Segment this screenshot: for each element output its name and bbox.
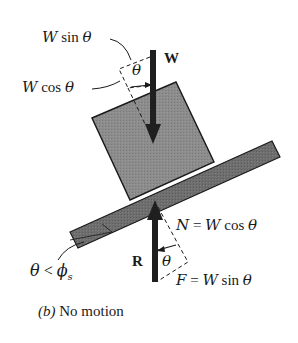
f-var: F [176,271,186,289]
w-sin-arrowhead [131,82,152,88]
caption-text: No motion [56,303,124,319]
normal-arrowhead [157,245,176,252]
w-var: W [202,271,217,289]
caption-part-label: (b) [38,303,56,319]
sin-fn: sin [218,272,243,288]
equals: = [186,272,202,288]
w-var: W [22,78,37,96]
sin-fn: sin [57,29,82,45]
w-sin-leader [110,39,131,60]
phi-symbol: ϕ [57,261,68,280]
cos-fn: cos [37,79,65,95]
no-motion-diagram [0,0,298,343]
theta-symbol: θ [30,261,40,280]
friction-force-label: F = W sin θ [176,273,252,288]
weight-label: W [164,51,179,66]
w-var: W [205,216,220,234]
n-var: N [176,216,189,234]
w-cos-theta-label: W cos θ [22,80,74,95]
theta-symbol: θ [82,28,91,46]
subscript-s: s [68,271,73,282]
theta-symbol: θ [243,271,252,289]
w-sin-theta-label: W sin θ [42,30,91,45]
equals: = [189,217,205,233]
less-than: < [40,262,57,279]
cos-fn: cos [221,217,249,233]
top-angle-label: θ [132,63,141,78]
theta-symbol: θ [248,216,257,234]
reaction-label: R [132,254,143,269]
static-friction-condition: θ < ϕs [30,263,73,282]
w-var: W [42,28,57,46]
w-cos-leader [92,81,120,89]
theta-symbol: θ [65,78,74,96]
bottom-angle-label: θ [162,254,171,269]
normal-force-label: N = W cos θ [176,218,257,233]
figure-caption: (b) No motion [38,304,124,319]
